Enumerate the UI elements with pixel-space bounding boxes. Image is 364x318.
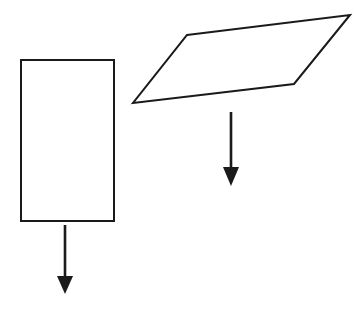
rectangle-force-arrow — [57, 225, 73, 294]
rectangle-shape — [21, 60, 114, 221]
geometry-figure — [0, 0, 364, 318]
rectangle-arrow-head — [57, 276, 73, 294]
parallelogram-shape — [133, 15, 350, 103]
figure-canvas — [0, 0, 364, 318]
parallelogram-force-arrow — [223, 112, 239, 186]
parallelogram-arrow-head — [223, 167, 239, 186]
